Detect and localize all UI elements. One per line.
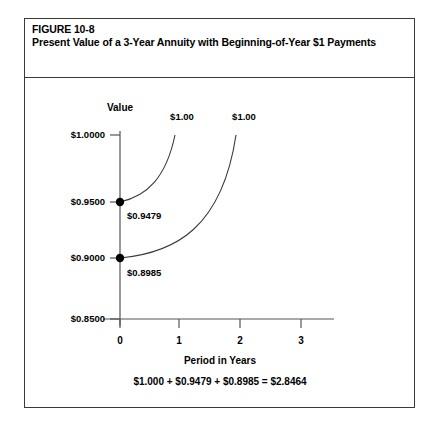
x-tick-label-3: 3 bbox=[298, 335, 304, 346]
y-tick-label-0: $1.0000 bbox=[71, 129, 105, 140]
annuity-present-value-chart: $1.0000 $0.9500 $0.9000 $0.8500 0 1 2 3 … bbox=[25, 78, 416, 408]
y-tick-label-1: $0.9500 bbox=[71, 196, 105, 207]
x-tick-label-2: 2 bbox=[237, 335, 243, 346]
y-axis-title: Value bbox=[107, 102, 134, 113]
data-point-label-0: $0.9479 bbox=[127, 210, 161, 221]
curve-payment-2 bbox=[120, 135, 175, 202]
data-point-marker-1 bbox=[116, 254, 124, 262]
data-point-label-1: $0.8985 bbox=[127, 267, 162, 278]
y-tick-label-2: $0.9000 bbox=[71, 252, 105, 263]
figure-number: FIGURE 10-8 bbox=[32, 23, 408, 36]
equation-annotation: $1.000 + $0.9479 + $0.8985 = $2.8464 bbox=[133, 376, 307, 387]
figure-title-block: FIGURE 10-8 Present Value of a 3-Year An… bbox=[25, 19, 414, 78]
data-point-marker-0 bbox=[116, 198, 124, 206]
curve-end-label-1: $1.00 bbox=[170, 111, 194, 122]
chart-plot-area: $1.0000 $0.9500 $0.9000 $0.8500 0 1 2 3 … bbox=[25, 78, 414, 408]
figure-box: FIGURE 10-8 Present Value of a 3-Year An… bbox=[24, 18, 415, 408]
curve-end-label-2: $1.00 bbox=[232, 111, 256, 122]
x-tick-label-1: 1 bbox=[176, 335, 182, 346]
y-tick-label-3: $0.8500 bbox=[71, 313, 105, 324]
figure-caption: Present Value of a 3-Year Annuity with B… bbox=[32, 36, 408, 49]
x-axis-title: Period in Years bbox=[184, 355, 257, 366]
x-tick-label-0: 0 bbox=[117, 335, 123, 346]
curve-payment-3 bbox=[120, 135, 236, 258]
